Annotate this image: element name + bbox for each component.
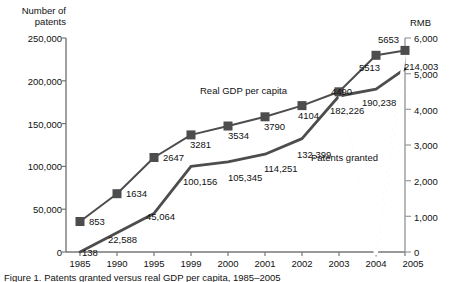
point-label-patents-1990: 22,588 [108,234,137,245]
series-annotation-real-gdp-per-capita: Real GDP per capita [200,85,287,96]
patents-gdp-chart: Number ofpatents RMB 0 50,000 100,000 15… [0,0,450,282]
data-point-gdp-2005 [401,46,410,55]
data-point-gdp-2002 [298,101,307,110]
data-point-gdp-2001 [261,112,270,121]
point-label-gdp-2000: 3534 [228,130,249,141]
point-label-gdp-2005: 5653 [378,34,399,45]
data-point-gdp-1995 [150,153,159,162]
data-point-gdp-1985 [76,217,85,226]
series-annotation-patents-granted: Patents granted [311,152,378,163]
point-label-gdp-1990: 1634 [126,188,147,199]
point-label-gdp-1999: 3281 [190,139,211,150]
data-point-gdp-1990 [113,189,122,198]
point-label-patents-2000: 105,345 [228,172,262,183]
point-label-patents-2004: 190,238 [362,97,396,108]
point-label-gdp-1995: 2647 [163,152,184,163]
point-label-gdp-2004: 5513 [359,62,380,73]
point-label-patents-2003: 182,226 [330,105,364,116]
point-label-gdp-2003: 4490 [331,86,352,97]
point-label-gdp-2002: 4104 [298,110,319,121]
figure-caption: Figure 1. Patents granted versus real GD… [4,272,448,282]
point-label-gdp-2001: 3790 [264,121,285,132]
point-label-patents-1985: 138 [82,247,98,258]
point-label-patents-2005: 214,003 [404,61,438,72]
point-label-patents-2001: 114,251 [264,163,298,174]
data-point-gdp-2004 [372,51,381,60]
point-label-gdp-1985: 853 [89,216,105,227]
point-label-patents-1999: 100,156 [183,176,217,187]
point-label-patents-1995: 45,064 [146,211,175,222]
